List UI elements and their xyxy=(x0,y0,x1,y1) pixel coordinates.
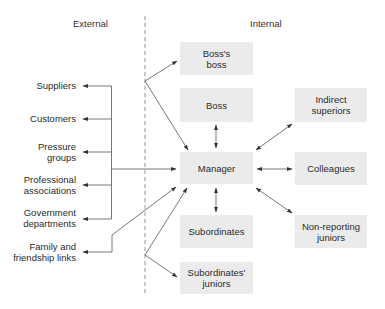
node-label: friendship links xyxy=(0,252,76,263)
node-professional-associations: Professional associations xyxy=(0,174,76,196)
node-label: Subordinates' xyxy=(188,267,246,278)
node-label: Customers xyxy=(0,113,76,124)
node-indirect-superiors: Indirectsuperiors xyxy=(295,88,367,122)
heading-external: External xyxy=(73,18,108,29)
node-label: departments xyxy=(0,218,76,229)
node-label: Non-reporting xyxy=(302,221,360,232)
node-label: Subordinates xyxy=(189,226,245,237)
arrow-to-boss-boss xyxy=(145,61,177,81)
node-label: Boss's xyxy=(203,48,231,59)
node-boss-boss: Boss'sboss xyxy=(180,42,253,75)
node-label: superiors xyxy=(311,105,350,116)
node-label: Suppliers xyxy=(0,80,76,91)
node-label: Manager xyxy=(198,163,236,174)
node-label: Colleagues xyxy=(307,163,355,174)
node-suppliers: Suppliers xyxy=(0,80,76,91)
node-label: Boss xyxy=(206,100,227,111)
heading-internal: Internal xyxy=(250,18,282,29)
node-label: Professional xyxy=(0,174,76,185)
node-manager: Manager xyxy=(180,152,253,184)
node-label: juniors xyxy=(317,232,345,243)
node-subordinates-juniors: Subordinates'juniors xyxy=(180,262,253,294)
node-boss: Boss xyxy=(180,88,253,122)
arrow-to-subordinates-juniors xyxy=(145,255,177,277)
node-colleagues: Colleagues xyxy=(295,152,367,185)
diagram-canvas: External Internal Boss'sboss Boss Manage… xyxy=(0,0,385,309)
node-label: Government xyxy=(0,207,76,218)
arrow-manager-non-reporting xyxy=(256,188,292,213)
node-pressure-groups: Pressure groups xyxy=(0,141,76,163)
node-label: groups xyxy=(0,152,76,163)
node-customers: Customers xyxy=(0,113,76,124)
node-subordinates: Subordinates xyxy=(180,215,253,248)
node-label: Indirect xyxy=(315,94,346,105)
arrow-family-links xyxy=(83,187,176,252)
node-label: Pressure xyxy=(0,141,76,152)
node-label: Family and xyxy=(0,241,76,252)
node-non-reporting-juniors: Non-reportingjuniors xyxy=(295,215,367,248)
node-label: associations xyxy=(0,185,76,196)
node-government-departments: Government departments xyxy=(0,207,76,229)
node-family-links: Family and friendship links xyxy=(0,241,76,263)
node-label: juniors xyxy=(203,278,231,289)
arrow-manager-indirect-superiors xyxy=(256,124,292,150)
node-label: boss xyxy=(206,59,226,70)
